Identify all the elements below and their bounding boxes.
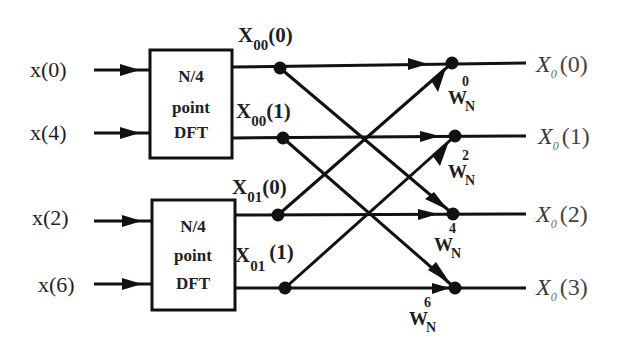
svg-text:WN: WN — [409, 308, 436, 335]
dft-block-bottom: N/4 point DFT — [152, 200, 235, 310]
block1-line2: point — [172, 98, 210, 117]
node-left-3 — [279, 282, 292, 295]
butterfly-diagram: x(0) x(4) x(2) x(6) N/4 point DFT N/4 po… — [0, 0, 643, 356]
input-label-x2: x(2) — [32, 205, 69, 230]
svg-text:WN: WN — [448, 87, 475, 114]
block2-line1: N/4 — [180, 217, 206, 236]
input-arrows — [94, 64, 152, 290]
svg-text:2: 2 — [462, 148, 469, 163]
node-right-0 — [446, 57, 459, 70]
svg-text:0: 0 — [462, 74, 469, 89]
output-label-x0-3: X0(3) — [535, 274, 588, 304]
svg-text:X00(1): X00(1) — [236, 99, 291, 129]
svg-text:WN: WN — [448, 161, 475, 188]
node-left-0 — [274, 62, 287, 75]
intermediate-label-x01-0: X01(0) — [232, 175, 287, 205]
output-label-x0-0: X0(0) — [535, 51, 588, 81]
butterfly-nodes — [272, 57, 462, 295]
intermediate-label-x01-1: X01(1) — [235, 240, 294, 274]
output-label-x0-2: X0(2) — [535, 201, 588, 231]
twiddle-label-w6: WN 6 — [409, 295, 436, 335]
svg-text:6: 6 — [424, 295, 431, 310]
svg-text:X0(2): X0(2) — [535, 201, 588, 231]
svg-text:X01(0): X01(0) — [232, 175, 287, 205]
block1-line3: DFT — [174, 123, 209, 142]
intermediate-label-x00-0: X00(0) — [238, 23, 293, 53]
input-label-x6: x(6) — [38, 272, 75, 297]
svg-text:X0(1): X0(1) — [537, 123, 590, 153]
block1-line1: N/4 — [178, 67, 204, 86]
input-label-x0: x(0) — [30, 57, 67, 82]
svg-text:X0(0): X0(0) — [535, 51, 588, 81]
svg-text:X00(0): X00(0) — [238, 23, 293, 53]
node-left-2 — [272, 209, 285, 222]
block2-line2: point — [174, 246, 212, 265]
dft-block-top: N/4 point DFT — [150, 50, 232, 158]
twiddle-label-w2: WN 2 — [448, 148, 475, 188]
twiddle-label-w0: WN 0 — [448, 74, 475, 114]
svg-text:X01(1): X01(1) — [235, 240, 294, 274]
horizontal-arrowheads — [408, 58, 450, 294]
node-right-1 — [449, 130, 462, 143]
node-left-1 — [277, 132, 290, 145]
node-right-2 — [447, 208, 460, 221]
output-label-x0-1: X0(1) — [537, 123, 590, 153]
butterfly-cross-lines — [278, 63, 455, 288]
svg-text:4: 4 — [449, 221, 456, 236]
block2-line3: DFT — [176, 274, 211, 293]
svg-text:WN: WN — [434, 234, 461, 261]
input-label-x4: x(4) — [30, 120, 67, 145]
intermediate-label-x00-1: X00(1) — [236, 99, 291, 129]
svg-text:X0(3): X0(3) — [535, 274, 588, 304]
twiddle-label-w4: WN 4 — [434, 221, 461, 261]
node-right-3 — [449, 282, 462, 295]
